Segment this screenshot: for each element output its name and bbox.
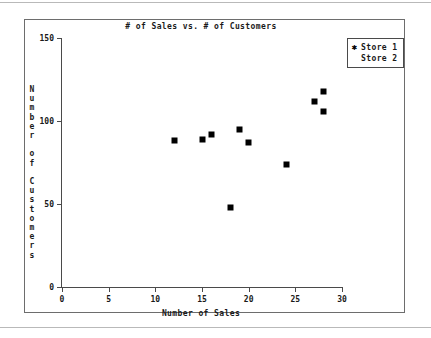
x-axis-tick-label: 25	[291, 295, 301, 304]
x-axis-tick-label: 30	[337, 295, 347, 304]
y-axis-label-char: f	[26, 159, 38, 168]
y-axis-tick-label: 150	[40, 34, 54, 43]
y-axis-tick-label: 100	[40, 117, 54, 126]
legend-marker-icon: ✱	[348, 43, 361, 52]
y-axis-label-char: e	[26, 122, 38, 131]
y-axis-tick	[57, 38, 62, 39]
y-axis-label-char: t	[26, 205, 38, 214]
plot-canvas: 050100150051015202530	[62, 38, 342, 287]
x-axis-tick	[342, 287, 343, 292]
legend-item-label: Store 1	[361, 43, 398, 52]
x-axis-tick-label: 0	[60, 295, 65, 304]
y-axis-label-char: r	[26, 131, 38, 140]
data-point	[172, 138, 177, 143]
x-axis-label: Number of Sales	[61, 309, 341, 318]
y-axis-label-char: r	[26, 241, 38, 250]
legend-item-label: Store 2	[361, 54, 398, 63]
y-axis-label: Number of Customers	[26, 85, 38, 260]
x-axis-tick	[155, 287, 156, 292]
data-point	[284, 162, 289, 167]
y-axis-label-char: C	[26, 177, 38, 186]
x-axis-tick-label: 10	[151, 295, 161, 304]
top-divider	[0, 2, 431, 3]
data-point	[209, 132, 214, 137]
x-axis-tick-label: 20	[244, 295, 254, 304]
y-axis-label-char: N	[26, 85, 38, 94]
y-axis-label-char: s	[26, 251, 38, 260]
x-axis-tick	[62, 287, 63, 292]
y-axis-label-char: m	[26, 103, 38, 112]
bottom-divider	[0, 327, 431, 328]
y-axis-tick-label: 0	[49, 283, 54, 292]
legend: ✱Store 1Store 2	[347, 38, 404, 68]
x-axis-tick	[295, 287, 296, 292]
chart-screenshot: # of Sales vs. # of Customers Number of …	[0, 0, 431, 338]
y-axis-label-char: u	[26, 186, 38, 195]
y-axis-tick	[57, 204, 62, 205]
data-point	[228, 205, 233, 210]
y-axis-label-char: b	[26, 113, 38, 122]
x-axis-tick	[202, 287, 203, 292]
legend-item[interactable]: ✱Store 1	[348, 42, 403, 53]
data-point	[237, 127, 242, 132]
legend-item[interactable]: Store 2	[348, 53, 403, 64]
y-axis-label-char	[26, 140, 38, 149]
x-axis-tick	[249, 287, 250, 292]
y-axis-label-char: m	[26, 223, 38, 232]
data-point	[321, 109, 326, 114]
chart-title: # of Sales vs. # of Customers	[61, 22, 341, 31]
x-axis-tick-label: 5	[106, 295, 111, 304]
data-point	[312, 99, 317, 104]
x-axis-tick-label: 15	[197, 295, 207, 304]
y-axis-label-char: u	[26, 94, 38, 103]
plot-area: 050100150051015202530	[61, 38, 342, 288]
y-axis-tick-label: 50	[44, 200, 54, 209]
y-axis-label-char: e	[26, 232, 38, 241]
data-point	[200, 137, 205, 142]
data-point	[246, 140, 251, 145]
y-axis-label-char: o	[26, 214, 38, 223]
y-axis-tick	[57, 121, 62, 122]
x-axis-tick	[109, 287, 110, 292]
y-axis-label-char	[26, 168, 38, 177]
data-point	[321, 89, 326, 94]
y-axis-label-char: s	[26, 195, 38, 204]
y-axis-label-char: o	[26, 149, 38, 158]
